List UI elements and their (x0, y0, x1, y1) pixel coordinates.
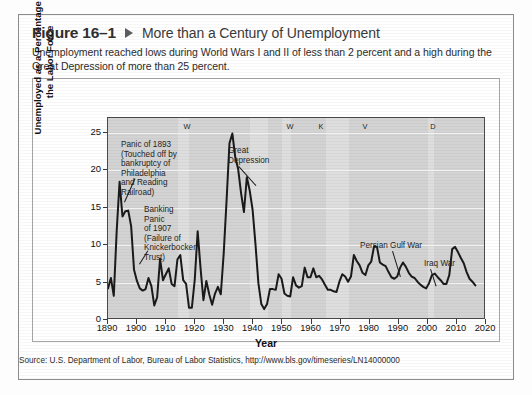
x-tick-mark (427, 319, 428, 324)
band-label-char: W (182, 123, 192, 132)
annotation-line: bankruptcy of (121, 159, 187, 169)
annotation-line: Iraq War (424, 259, 468, 269)
y-tick-label: 20 (77, 163, 101, 174)
band-label-char: W (285, 123, 295, 132)
x-tick-mark (281, 319, 282, 324)
figure-title-row: Figure 16–1 More than a Century of Unemp… (32, 24, 502, 42)
chart-frame: Unemployed as a Percentage of the Labor … (32, 78, 500, 342)
x-tick-mark (340, 319, 341, 324)
annotation-line: Persian Gulf War (360, 241, 434, 251)
annotation-persian-gulf-war: Persian Gulf War (360, 241, 434, 251)
band-label-korean-war: K (316, 123, 326, 132)
figure-source: Source: U.S. Department of Labor, Bureau… (19, 356, 400, 365)
plot-area: W W K V D Panic of 1893 (Touched off by (107, 117, 485, 319)
annotation-line: Philadelphia (121, 169, 187, 179)
annotation-line: (Failure of (144, 234, 206, 244)
annotation-line: Panic (144, 215, 206, 225)
y-tick-label: 25 (77, 126, 101, 137)
x-tick-mark (311, 319, 312, 324)
annotation-line: Depression (228, 156, 288, 166)
figure-card: Figure 16–1 More than a Century of Unemp… (18, 14, 514, 380)
band-label-vietnam-war: V (360, 123, 370, 132)
figure-subtitle: Unemployment reached lows during World W… (32, 46, 500, 73)
y-tick-label: 15 (77, 201, 101, 212)
figure-header: Figure 16–1 More than a Century of Unemp… (32, 24, 502, 73)
band-label-world-war-ii: W (285, 123, 295, 132)
y-tick-label: 10 (77, 238, 101, 249)
figure-title: More than a Century of Unemployment (142, 25, 380, 41)
figure-page: Figure 16–1 More than a Century of Unemp… (0, 0, 532, 395)
y-tick-label: 5 (77, 276, 101, 287)
x-tick-mark (136, 319, 137, 324)
x-tick-mark (369, 319, 370, 324)
x-tick-mark (456, 319, 457, 324)
triangle-right-icon (125, 28, 133, 38)
band-label-world-war-i: W (182, 123, 192, 132)
band-label-char: K (316, 123, 326, 132)
annotation-iraq-war: Iraq War (424, 259, 468, 269)
annotation-banking-panic-1907: Banking Panic of 1907 (Failure of Knicke… (144, 205, 206, 262)
annotation-line: (Touched off by (121, 150, 187, 160)
annotation-line: Knickerbocker (144, 243, 206, 253)
x-tick-label: 2020 (465, 323, 505, 333)
x-tick-mark (223, 319, 224, 324)
band-label-dotcom-meltdown: D (428, 123, 438, 132)
annotation-line: Trust) (144, 253, 206, 263)
annotation-line: Panic of 1893 (121, 140, 187, 150)
x-tick-mark (107, 319, 108, 324)
x-tick-mark (252, 319, 253, 324)
band-label-char: V (360, 123, 370, 132)
x-axis-title: Year (33, 337, 499, 349)
x-tick-mark (194, 319, 195, 324)
x-tick-mark (485, 319, 486, 324)
annotation-line: Great (228, 146, 288, 156)
x-tick-mark (165, 319, 166, 324)
annotation-great-depression: Great Depression (228, 146, 288, 165)
y-axis-title: Unemployed as a Percentage of the Labor … (32, 0, 56, 137)
annotation-line: of 1907 (144, 224, 206, 234)
annotation-line: Banking (144, 205, 206, 215)
x-tick-mark (398, 319, 399, 324)
band-label-char: D (428, 123, 438, 132)
